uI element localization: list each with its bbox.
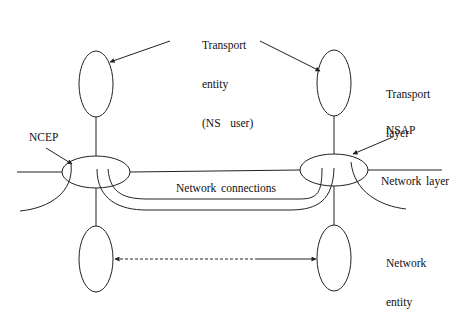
transport-layer-label: Transport layer (386, 62, 430, 153)
network-connection-1 (130, 170, 300, 172)
network-entity-right-node (317, 225, 351, 291)
transport-entity-left-pointer (110, 41, 170, 62)
transport-entity-right-node (317, 50, 351, 116)
network-connections-label: Network connections (176, 182, 276, 195)
transport-entity-label: Transport entity (NS user) (202, 13, 253, 143)
ncep-node (62, 156, 130, 188)
transport-entity-right-pointer (260, 41, 320, 71)
ncep-pointer (46, 148, 72, 164)
network-entity-left-node (79, 226, 113, 292)
ncep-label: NCEP (29, 131, 58, 144)
network-layer-label: Network layer (381, 175, 449, 188)
transport-entity-left-node (79, 51, 113, 117)
nsap-label: NSAP (386, 124, 415, 137)
network-entity-label: Network entity (386, 231, 426, 312)
left-outer-network-arc (20, 164, 71, 211)
